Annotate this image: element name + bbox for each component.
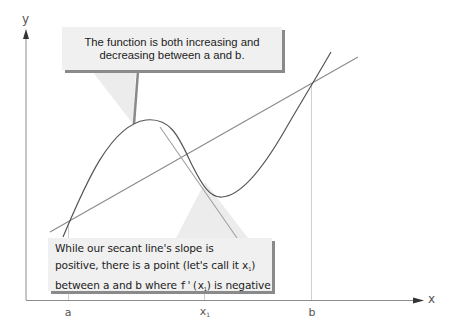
y-axis-label: y xyxy=(22,13,29,25)
top-callout-line-1: The function is both increasing and xyxy=(84,36,259,48)
bottom-callout-line-3: between a and b where f'(x1) is negative xyxy=(55,279,271,291)
bottom-callout-text: While our secant line's slope is positiv… xyxy=(48,238,272,298)
tick-label-a: a xyxy=(65,307,72,318)
bottom-callout-pointer xyxy=(176,182,248,238)
line3-pre: between a and b where xyxy=(55,279,180,291)
tick-label-x1: x1 xyxy=(200,306,210,318)
x-axis-label: x xyxy=(428,293,435,305)
line3-func: f'( xyxy=(180,280,198,291)
x-axis-arrow-icon xyxy=(413,298,424,304)
bottom-callout-line-2: positive, there is a point (let's call i… xyxy=(55,259,255,271)
tick-label-b: b xyxy=(309,307,316,318)
tick-b-text: b xyxy=(309,306,316,319)
bottom-callout-line-1: While our secant line's slope is xyxy=(55,242,214,254)
bottom-callout: While our secant line's slope is positiv… xyxy=(48,238,272,291)
line2-pre: positive, there is a point (let's call i… xyxy=(55,259,242,271)
tick-a-text: a xyxy=(65,306,72,319)
line2-post: ) xyxy=(251,259,255,271)
top-callout-text: The function is both increasing and decr… xyxy=(78,36,265,62)
top-callout-line-2: decreasing between a and b. xyxy=(99,49,244,61)
y-axis-arrow-icon xyxy=(23,29,29,39)
line3-end: is negative xyxy=(211,279,271,291)
tick-x1-subscript: 1 xyxy=(206,311,210,318)
top-callout: The function is both increasing and decr… xyxy=(62,27,282,70)
top-callout-pointer xyxy=(92,71,136,124)
